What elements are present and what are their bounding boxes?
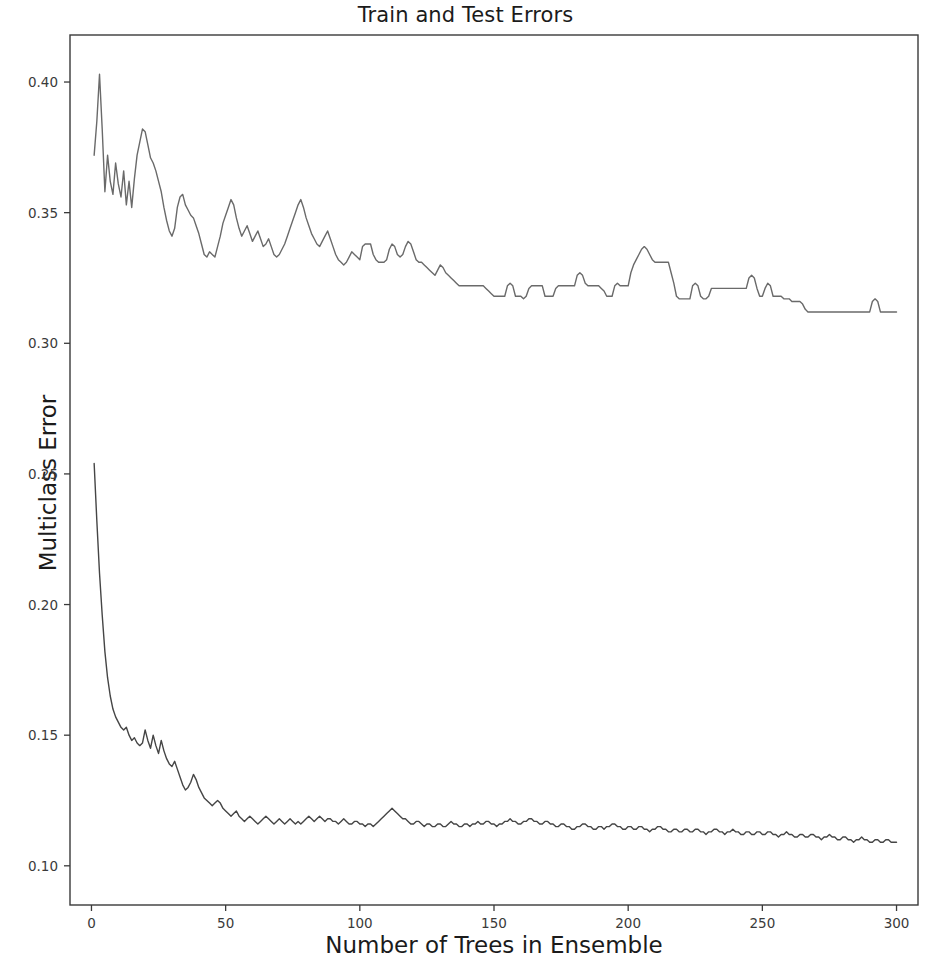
plot-canvas: 0.100.150.200.250.300.350.40 05010015020… (0, 0, 931, 970)
x-tick-label: 50 (217, 915, 234, 931)
x-tick-label: 150 (481, 915, 507, 931)
y-tick-label: 0.30 (28, 335, 58, 351)
y-tick-label: 0.25 (28, 466, 58, 482)
x-tick-label: 250 (749, 915, 775, 931)
y-tick-label: 0.20 (28, 597, 58, 613)
x-tick-group: 050100150200250300 (87, 905, 909, 931)
chart-figure: Train and Test Errors Multiclass Error N… (0, 0, 931, 970)
y-tick-label: 0.35 (28, 205, 58, 221)
x-tick-label: 0 (87, 915, 96, 931)
plot-background (70, 35, 918, 905)
y-tick-group: 0.100.150.200.250.300.350.40 (28, 74, 70, 874)
x-tick-label: 100 (347, 915, 373, 931)
y-tick-label: 0.15 (28, 727, 58, 743)
y-tick-label: 0.40 (28, 74, 58, 90)
y-tick-label: 0.10 (28, 858, 58, 874)
x-tick-label: 200 (615, 915, 641, 931)
plot-area: 0.100.150.200.250.300.350.40 05010015020… (28, 35, 918, 931)
x-tick-label: 300 (884, 915, 910, 931)
